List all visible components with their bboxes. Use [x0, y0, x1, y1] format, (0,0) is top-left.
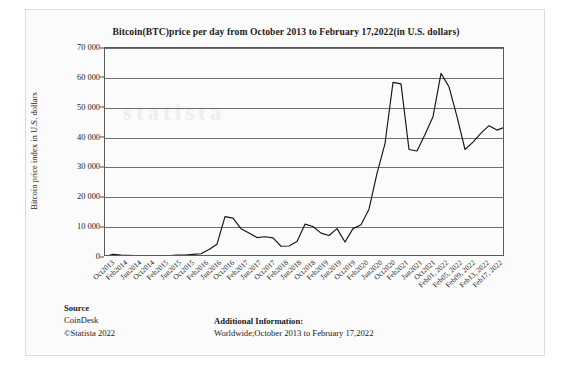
- price-line-series: [105, 48, 504, 256]
- plot-frame: statista: [104, 47, 504, 256]
- source-block: Source CoinDesk ©Statista 2022: [64, 302, 115, 339]
- y-axis-tick-label: 20 000: [36, 192, 100, 201]
- y-axis-tick-mark: [100, 166, 104, 167]
- y-axis-tick-mark: [100, 196, 104, 197]
- y-axis-tick-mark: [100, 256, 104, 257]
- source-copyright: ©Statista 2022: [64, 327, 115, 339]
- screenshot-root: Bitcoin(BTC)price per day from October 2…: [0, 0, 575, 368]
- y-axis-tick-mark: [100, 226, 104, 227]
- y-axis-tick-label: 30 000: [36, 162, 100, 171]
- y-axis-title: Bitcoin price index in U.S. dollars: [29, 92, 39, 210]
- chart-footer: Source CoinDesk ©Statista 2022 Additiona…: [26, 302, 546, 357]
- source-name: CoinDesk: [64, 314, 115, 326]
- additional-information-text: Worldwide;October 2013 to February 17,20…: [214, 327, 373, 339]
- chart-title: Bitcoin(BTC)price per day from October 2…: [26, 27, 546, 38]
- additional-information-heading: Additional Information:: [214, 315, 373, 327]
- y-axis-tick-label: 10 000: [36, 222, 100, 231]
- additional-information-block: Additional Information: Worldwide;Octobe…: [214, 315, 373, 340]
- y-axis-tick-mark: [100, 47, 104, 48]
- y-axis-tick-label: 40 000: [36, 132, 100, 141]
- y-axis-tick-label: 60 000: [36, 72, 100, 81]
- y-axis-tick-label: 50 000: [36, 102, 100, 111]
- y-axis-tick-mark: [100, 77, 104, 78]
- plot-area: statista 010 00020 00030 00040 00050 000…: [104, 47, 504, 256]
- y-axis-tick-mark: [100, 107, 104, 108]
- y-axis-tick-mark: [100, 137, 104, 138]
- source-heading: Source: [64, 302, 115, 314]
- y-axis-tick-label: 0: [36, 252, 100, 261]
- y-axis-tick-label: 70 000: [36, 43, 100, 52]
- statista-chart-card: Bitcoin(BTC)price per day from October 2…: [25, 9, 545, 356]
